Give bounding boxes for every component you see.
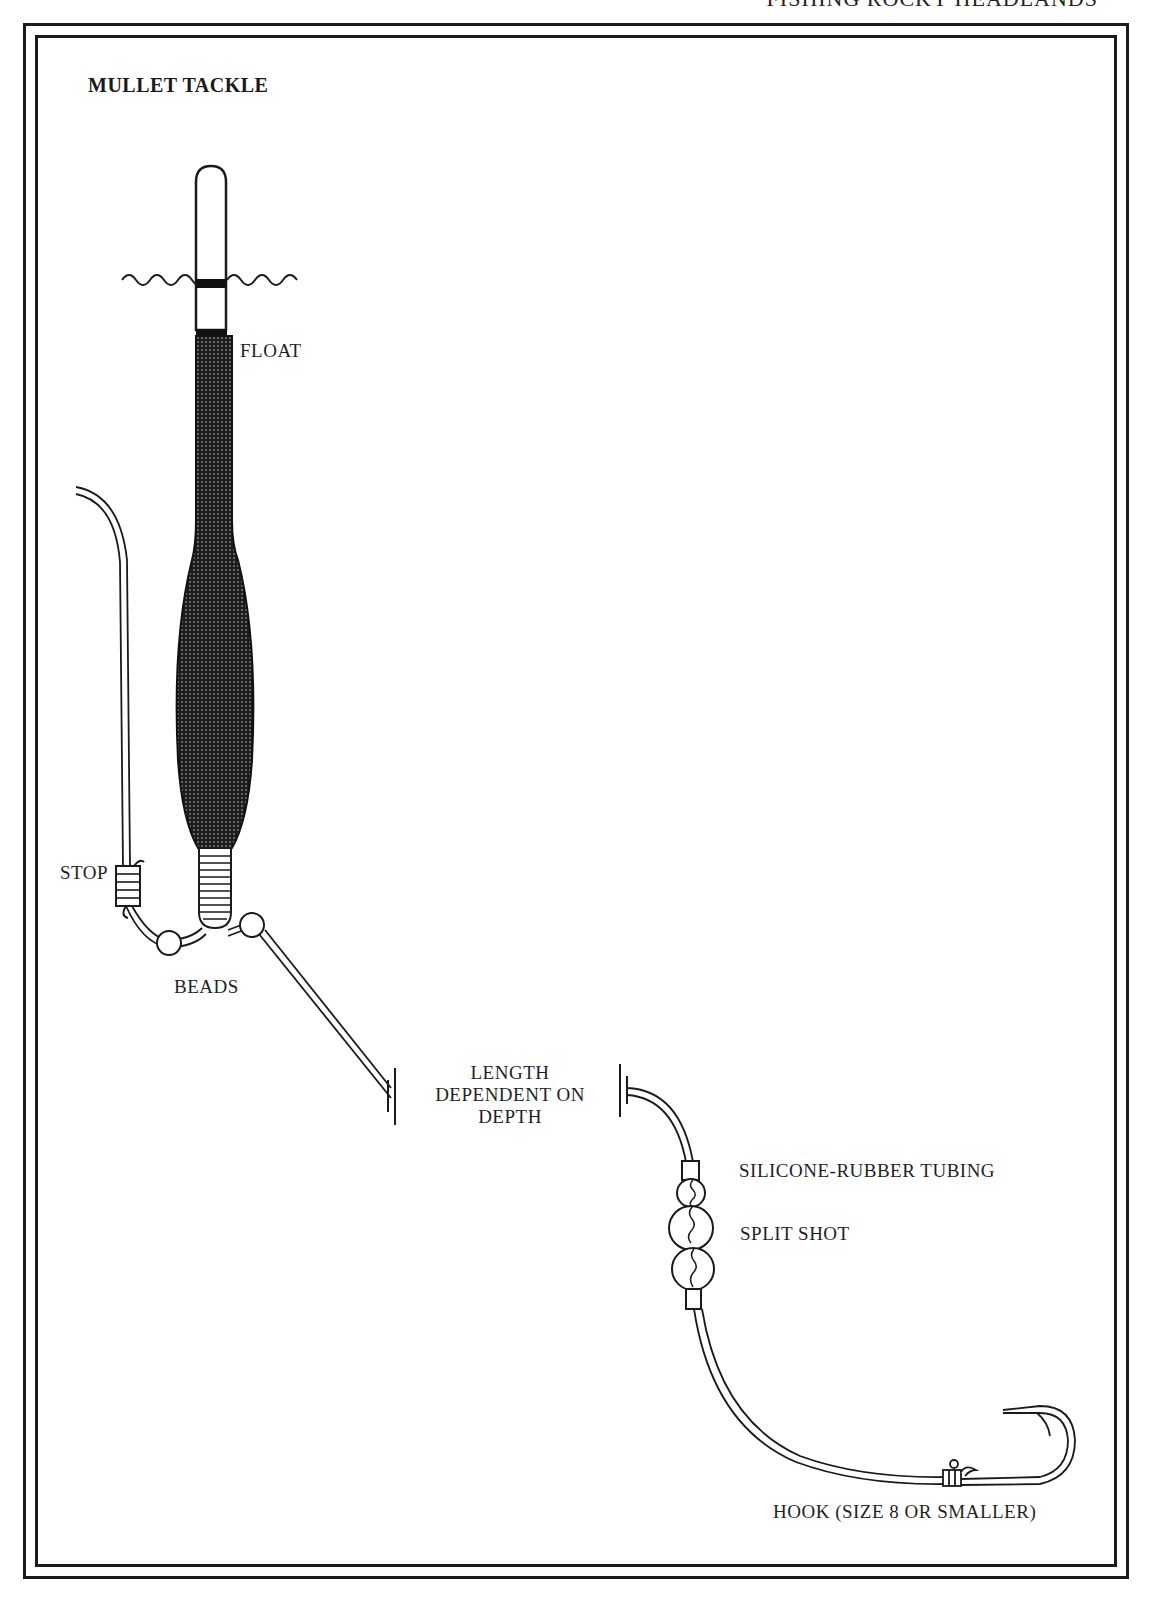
tubing-bottom-icon [686,1289,701,1309]
length-label-line-2: DEPENDENT ON [410,1084,610,1106]
tubing-label: SILICONE-RUBBER TUBING [739,1160,995,1182]
length-label-line-3: DEPTH [410,1106,610,1128]
stop-knot-icon [116,861,144,918]
bead-left-icon [157,931,181,955]
length-label-line-1: LENGTH [410,1062,610,1084]
float-label: FLOAT [240,340,302,362]
hook-label: HOOK (SIZE 8 OR SMALLER) [773,1501,1036,1523]
line-break-right-icon [620,1064,627,1117]
split-shot-icon [669,1179,714,1290]
hook-icon [961,1406,1075,1485]
hook-knot-icon [943,1460,976,1486]
beads-label: BEADS [174,976,239,998]
mullet-tackle-diagram [0,0,1158,1610]
diagonal-line-icon [259,930,391,1098]
leader-upper-icon [627,1088,693,1162]
stop-label: STOP [60,862,108,884]
bead-right-icon [240,913,264,937]
tubing-top-icon [682,1161,699,1180]
split-shot-label: SPLIT SHOT [740,1223,850,1245]
main-line-icon [76,487,130,866]
leader-lower-icon [694,1309,944,1484]
length-dependent-on-depth-label: LENGTH DEPENDENT ON DEPTH [410,1062,610,1128]
